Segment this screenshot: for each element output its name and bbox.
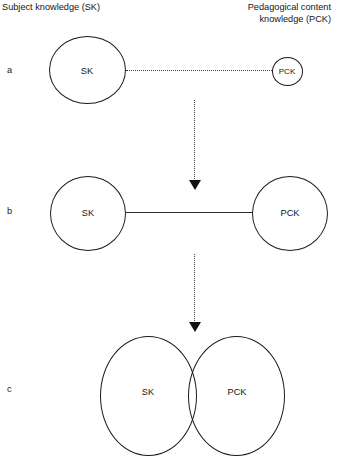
row-b-solid-connector xyxy=(126,212,253,213)
arrow-head xyxy=(189,180,201,190)
arrow-shaft xyxy=(194,100,195,181)
arrow-shaft xyxy=(194,254,195,323)
arrow-a-to-b-icon xyxy=(188,100,202,190)
header-pck-line1: Pedagogical content xyxy=(248,2,331,12)
row-a-sk-label: SK xyxy=(81,66,93,76)
arrow-head xyxy=(189,322,201,332)
row-label-c: c xyxy=(7,384,12,394)
row-b-pck-label: PCK xyxy=(281,208,300,218)
row-label-b: b xyxy=(7,206,12,216)
row-c-pck-label: PCK xyxy=(228,387,247,397)
header-subject-knowledge: Subject knowledge (SK) xyxy=(2,2,100,14)
row-b-sk-label: SK xyxy=(82,208,94,218)
row-c-sk-label: SK xyxy=(142,387,154,397)
diagram-canvas: Subject knowledge (SK) Pedagogical conte… xyxy=(0,0,339,463)
row-a-dotted-connector xyxy=(126,70,272,72)
row-label-a: a xyxy=(7,65,12,75)
header-pck-line2: knowledge (PCK) xyxy=(260,14,332,24)
row-a-pck-label: PCK xyxy=(279,67,295,76)
arrow-b-to-c-icon xyxy=(188,254,202,332)
header-pedagogical-content-knowledge: Pedagogical content knowledge (PCK) xyxy=(211,2,331,25)
